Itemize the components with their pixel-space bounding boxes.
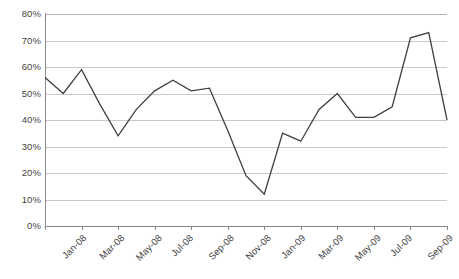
line-chart: 0%10%20%30%40%50%60%70%80% Jan-08Mar-08M… xyxy=(0,0,459,279)
data-series-line xyxy=(45,33,447,195)
data-series-layer xyxy=(0,0,459,279)
